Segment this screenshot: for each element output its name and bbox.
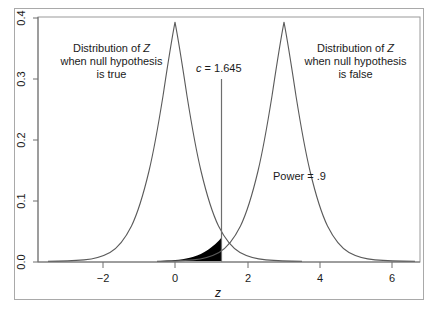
x-tick-label-4: 6: [382, 272, 402, 284]
x-tick-label-2: 2: [238, 272, 258, 284]
y-tick-label-0: 0.0: [15, 248, 27, 276]
x-axis-title: z: [215, 286, 221, 300]
right-distribution-label-line1-text: Distribution of: [317, 42, 387, 54]
right-distribution-label-line2: when null hypothesis: [288, 55, 423, 68]
left-distribution-label-line1-text: Distribution of: [73, 42, 143, 54]
y-tick-label-1: 0.1: [15, 187, 27, 215]
x-axis: [38, 262, 420, 268]
x-tick-label-1: 0: [165, 272, 185, 284]
power-label: Power = .9: [273, 170, 363, 183]
x-tick-label-3: 4: [310, 272, 330, 284]
right-distribution-label-line3: is false: [288, 68, 423, 81]
critical-value-label: c = 1.645: [196, 62, 266, 75]
y-tick-label-2: 0.2: [15, 126, 27, 154]
y-axis: [33, 17, 38, 262]
right-distribution-label-line1-variable: Z: [387, 42, 394, 54]
left-distribution-label-line1-variable: Z: [143, 42, 150, 54]
left-distribution-label-line2: when null hypothesis: [44, 55, 179, 68]
left-distribution-label: Distribution of Z when null hypothesis i…: [44, 42, 179, 81]
right-distribution-label: Distribution of Z when null hypothesis i…: [288, 42, 423, 81]
y-tick-label-3: 0.3: [15, 65, 27, 93]
figure-container: 0.0 0.1 0.2 0.3 0.4 −2 0 2 4 6 z Distrib…: [0, 0, 437, 316]
x-tick-label-0: −2: [93, 272, 113, 284]
right-distribution-label-line1: Distribution of Z: [288, 42, 423, 55]
left-distribution-label-line1: Distribution of Z: [44, 42, 179, 55]
left-distribution-label-line3: is true: [44, 68, 179, 81]
y-tick-label-4: 0.4: [15, 4, 27, 32]
critical-value-number: = 1.645: [202, 62, 242, 74]
